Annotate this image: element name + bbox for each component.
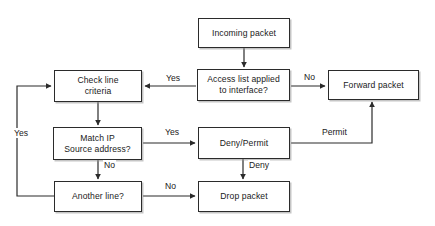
node-label: Match IP Source address? <box>64 133 130 155</box>
node-match-ip-source-address: Match IP Source address? <box>53 127 142 160</box>
node-label: Drop packet <box>220 191 267 202</box>
edge-label-no-anotherline-drop: No <box>164 181 177 191</box>
edge-label-no-matchip-anotherline: No <box>103 160 116 170</box>
edge-label-deny-drop: Deny <box>248 160 270 170</box>
node-deny-permit: Deny/Permit <box>198 127 290 159</box>
node-label: Check line criteria <box>77 75 118 97</box>
node-another-line: Another line? <box>54 181 142 212</box>
node-label: Forward packet <box>343 80 404 91</box>
node-label: Access list applied to interface? <box>207 74 280 96</box>
edge-label-yes-accesslist-checkline: Yes <box>165 73 181 83</box>
node-label: Deny/Permit <box>220 138 268 149</box>
node-access-list-applied: Access list applied to interface? <box>197 69 290 101</box>
edge-label-no-accesslist-forward: No <box>303 72 316 82</box>
edge-label-yes-matchip-denypermit: Yes <box>164 127 180 137</box>
node-drop-packet: Drop packet <box>198 181 290 212</box>
node-incoming-packet: Incoming packet <box>198 18 290 48</box>
flowchart-canvas: Incoming packet Access list applied to i… <box>0 0 435 226</box>
edge-label-yes-loop-anotherline: Yes <box>13 128 29 138</box>
edge-anotherline-loop-to-checkline <box>17 86 54 196</box>
node-label: Another line? <box>72 191 124 202</box>
node-label: Incoming packet <box>212 28 276 39</box>
node-forward-packet: Forward packet <box>328 70 419 100</box>
node-check-line-criteria: Check line criteria <box>54 70 142 102</box>
edge-label-permit-forward: Permit <box>321 127 348 137</box>
